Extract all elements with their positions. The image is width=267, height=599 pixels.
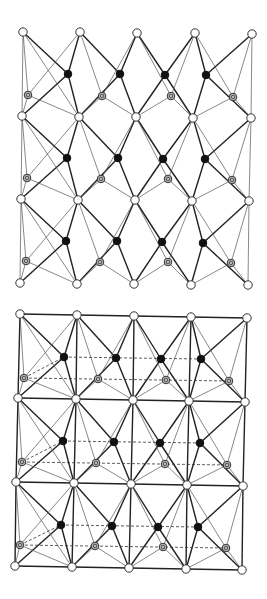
edge-diag xyxy=(112,526,129,568)
edge-diag xyxy=(193,75,206,118)
horizontal-edge xyxy=(16,482,74,483)
hatched-node xyxy=(164,258,172,266)
hatched-node xyxy=(92,459,100,467)
edge-thin xyxy=(189,401,227,465)
open-node xyxy=(125,564,133,572)
edge-thin xyxy=(78,200,100,262)
hatched-node xyxy=(159,543,167,551)
edge-thin xyxy=(135,179,168,200)
open-node xyxy=(127,480,135,488)
filled-node xyxy=(64,70,72,78)
dashed-link xyxy=(20,545,226,548)
hatched-node xyxy=(18,458,26,466)
vertical-edge xyxy=(243,402,245,486)
edge-diag xyxy=(200,443,243,486)
edge-diag xyxy=(66,200,78,241)
edge-diag xyxy=(23,32,68,74)
open-node xyxy=(185,397,193,405)
edge-thin xyxy=(20,314,24,378)
filled-node xyxy=(157,355,165,363)
edge-diag xyxy=(206,75,251,118)
hatched-node xyxy=(97,175,105,183)
filled-node xyxy=(116,70,124,78)
open-node xyxy=(191,29,199,37)
edge-diag xyxy=(192,159,205,201)
edge-thin xyxy=(131,484,163,547)
horizontal-edge xyxy=(134,316,191,317)
edge-thin xyxy=(136,117,168,179)
edge-diag xyxy=(161,317,191,359)
filled-node xyxy=(108,522,116,530)
edge-thin xyxy=(168,118,193,179)
hatched-node xyxy=(161,460,169,468)
edge-diag xyxy=(63,441,74,483)
edge-thin xyxy=(227,402,245,465)
open-node xyxy=(241,398,249,406)
lattice-figure xyxy=(0,0,267,599)
edge-side xyxy=(22,32,23,116)
edge-diag xyxy=(67,158,78,200)
hatched-node xyxy=(98,92,106,100)
filled-node xyxy=(194,523,202,531)
filled-node xyxy=(154,523,162,531)
edge-thin xyxy=(189,381,229,401)
edges xyxy=(20,32,252,285)
edge-diag xyxy=(186,527,198,569)
edge-diag xyxy=(165,33,195,75)
open-node xyxy=(130,312,138,320)
open-node xyxy=(16,279,24,287)
open-node xyxy=(18,112,26,120)
edge-thin xyxy=(191,317,229,381)
edges xyxy=(15,314,247,570)
open-node xyxy=(70,479,78,487)
edge-diag xyxy=(68,32,80,74)
edge-thin xyxy=(18,398,22,462)
edge-side xyxy=(249,118,251,201)
vertical-edge xyxy=(16,398,18,482)
edge-diag xyxy=(118,158,135,200)
vertical-edge xyxy=(133,316,134,400)
edge-diag xyxy=(76,399,114,442)
edge-thin xyxy=(134,262,168,284)
vertical-edge xyxy=(18,314,20,398)
edge-thin xyxy=(135,200,168,262)
horizontal-edge xyxy=(133,400,189,401)
open-node xyxy=(188,197,196,205)
hatched-node xyxy=(167,92,175,100)
edge-thin xyxy=(129,547,163,568)
open-node xyxy=(183,481,191,489)
filled-node xyxy=(158,238,166,246)
open-node xyxy=(129,396,137,404)
edge-diag xyxy=(116,358,133,400)
hatched-node xyxy=(24,91,32,99)
filled-node xyxy=(59,437,67,445)
edge-diag xyxy=(136,75,165,117)
filled-node xyxy=(60,353,68,361)
filled-node xyxy=(197,355,205,363)
open-node xyxy=(74,196,82,204)
hatched-node xyxy=(225,377,233,385)
edge-diag xyxy=(189,359,201,401)
edge-thin xyxy=(163,547,186,569)
horizontal-edge xyxy=(20,314,77,315)
edge-thin xyxy=(163,485,187,547)
open-node xyxy=(75,113,83,121)
edge-thin xyxy=(229,318,247,381)
edge-diag xyxy=(80,32,120,74)
open-node xyxy=(14,394,22,402)
edge-diag xyxy=(61,483,74,525)
hatched-node xyxy=(23,174,31,182)
hatched-node xyxy=(229,93,237,101)
edge-diag xyxy=(120,33,137,74)
edge-diag xyxy=(114,442,131,484)
edge-thin xyxy=(22,462,74,483)
edge-diag xyxy=(118,117,136,158)
edge-diag xyxy=(206,34,252,75)
horizontal-edge xyxy=(187,485,243,486)
filled-node xyxy=(62,237,70,245)
edge-thin xyxy=(166,317,191,380)
open-node xyxy=(187,281,195,289)
edge-thin xyxy=(186,548,226,569)
edge-diag xyxy=(162,201,192,242)
edge-diag xyxy=(135,200,162,242)
